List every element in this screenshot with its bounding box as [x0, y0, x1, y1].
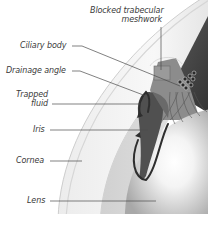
label-iris: Iris — [33, 125, 45, 134]
label-line-2: meshwork — [90, 15, 162, 24]
label-line-2: fluid — [6, 99, 48, 108]
label-line-1: Trapped — [6, 90, 48, 99]
label-lens: Lens — [27, 196, 45, 205]
label-blocked-trabecular-meshwork: Blocked trabecular meshwork — [90, 6, 162, 24]
trabecular-meshwork — [154, 66, 170, 80]
label-ciliary-body: Ciliary body — [20, 41, 66, 50]
label-drainage-angle: Drainage angle — [6, 66, 66, 75]
eye-illustration — [0, 0, 217, 228]
label-cornea: Cornea — [16, 156, 44, 165]
label-trapped-fluid: Trapped fluid — [6, 90, 48, 108]
label-line-1: Blocked trabecular — [90, 6, 162, 15]
glaucoma-diagram: Blocked trabecular meshwork Ciliary body… — [0, 0, 217, 228]
